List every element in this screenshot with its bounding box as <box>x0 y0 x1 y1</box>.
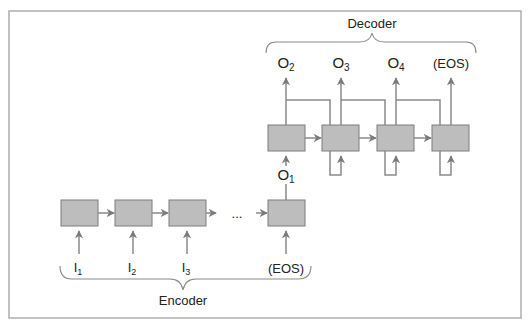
encoder-input-label: I2 <box>128 260 137 277</box>
decoder-cell <box>432 125 469 151</box>
decoder-output-label: O3 <box>332 54 350 73</box>
ellipsis: ... <box>232 206 243 221</box>
encoder-cell <box>268 200 305 226</box>
encoder-input-label: (EOS) <box>268 261 304 276</box>
decoder-output-label: O2 <box>277 54 295 73</box>
decoder-cell <box>377 125 414 151</box>
decoder-cell <box>268 125 305 151</box>
encoder-label: Encoder <box>159 293 208 308</box>
encoder-cell <box>61 200 98 226</box>
decoder-group: Decoder O2 O3 O4 (EOS) <box>266 16 476 175</box>
decoder-brace <box>266 33 476 53</box>
decoder-label: Decoder <box>347 16 397 31</box>
encoder-input-label: I1 <box>74 260 83 277</box>
seq2seq-diagram: Decoder O2 O3 O4 (EOS) O1 <box>0 0 530 327</box>
decoder-output-label: (EOS) <box>433 56 469 71</box>
encoder-group: ... I1 I2 I3 (EOS) Encoder <box>60 200 311 308</box>
decoder-output-label: O4 <box>387 54 405 73</box>
encoder-input-label: I3 <box>182 260 191 277</box>
encoder-cell <box>169 200 206 226</box>
decoder-cell <box>322 125 359 151</box>
bridge-group: O1 <box>276 156 298 200</box>
encoder-cell <box>115 200 152 226</box>
